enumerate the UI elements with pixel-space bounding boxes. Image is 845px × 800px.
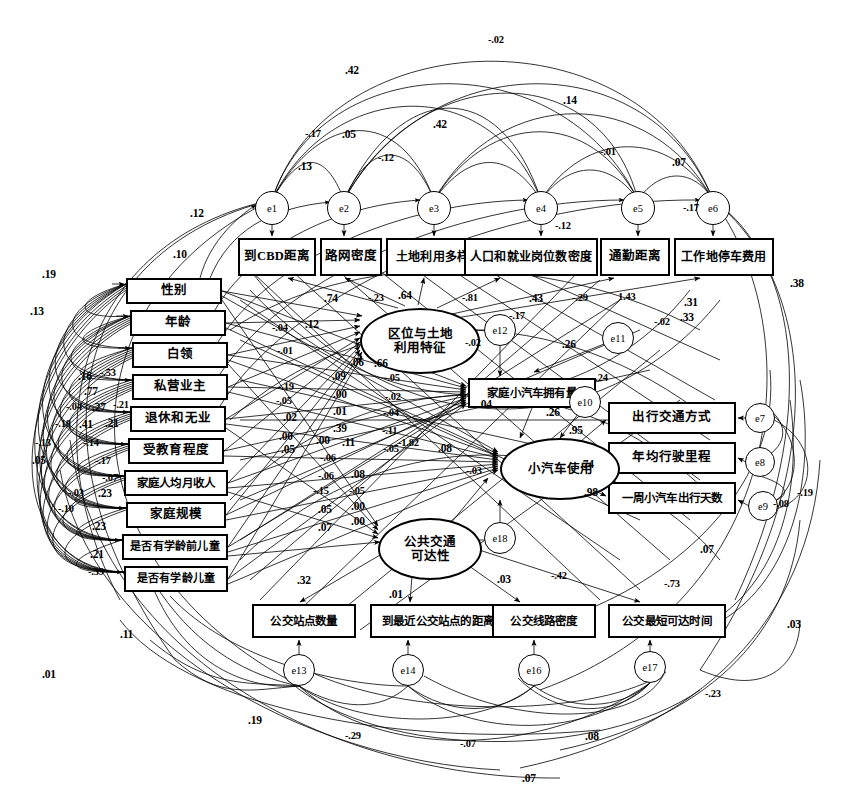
coefficient-label: .01 <box>42 668 56 680</box>
observed-label: 家庭小汽车拥有量 <box>487 387 577 399</box>
observed-box-age[interactable]: 年龄 <box>130 310 226 336</box>
observed-box-bus-stop-count[interactable]: 公交站点数量 <box>252 604 356 638</box>
coefficient-label: -.24 <box>592 372 608 383</box>
observed-box-road-density[interactable]: 路网密度 <box>320 238 382 276</box>
latent-car-usage[interactable]: 小汽车使用 <box>500 438 620 500</box>
observed-box-private-business-owner[interactable]: 私营业主 <box>132 374 228 400</box>
observed-box-household-income-per-capita[interactable]: 家庭人均月收人 <box>124 470 228 496</box>
coefficient-label: .12 <box>305 318 319 330</box>
error-circle-e4[interactable]: e4 <box>524 191 558 225</box>
observed-box-weekly-car-trip-days[interactable]: 一周小汽车出行天数 <box>608 482 736 514</box>
coefficient-label: .39 <box>333 422 347 434</box>
error-circle-e7[interactable]: e7 <box>745 403 775 433</box>
error-circle-e11[interactable]: e11 <box>602 322 634 354</box>
error-label: e2 <box>339 203 349 214</box>
observed-box-cbd-distance[interactable]: 到CBD距离 <box>238 238 316 276</box>
observed-box-retired-unemployed[interactable]: 退休和无业 <box>130 406 226 432</box>
error-label: e18 <box>492 533 507 544</box>
error-label: e17 <box>642 662 657 673</box>
observed-label: 出行交通方式 <box>632 411 711 424</box>
coefficient-label: .03 <box>497 573 511 585</box>
coefficient-label: .13 <box>298 160 312 172</box>
coefficient-label: -.12 <box>378 152 394 163</box>
error-circle-e17[interactable]: e17 <box>634 651 666 683</box>
observed-label: 家庭规模 <box>150 508 203 521</box>
latent-transit-accessibility[interactable]: 公共交通 可达性 <box>378 518 482 580</box>
coefficient-label: .66 <box>374 357 388 369</box>
observed-box-workplace-parking-cost[interactable]: 工作地停车费用 <box>674 238 774 276</box>
coefficient-label: .21 <box>105 417 119 429</box>
coefficient-label: -.23 <box>705 688 721 699</box>
coefficient-label: .07 <box>318 521 332 533</box>
coefficient-label: -.13 <box>35 437 51 448</box>
coefficient-label: -.17 <box>95 455 111 466</box>
coefficient-label: .31 <box>684 296 698 308</box>
coefficient-label: .07 <box>700 543 714 555</box>
observed-label: 年龄 <box>165 316 191 329</box>
error-circle-e10[interactable]: e10 <box>569 386 601 418</box>
error-circle-e8[interactable]: e8 <box>745 447 775 477</box>
coefficient-label: -.04 <box>272 322 288 333</box>
coefficient-label: .42 <box>345 64 359 76</box>
observed-box-distance-to-nearest-bus-stop[interactable]: 到最近公交站点的距离 <box>370 604 506 638</box>
coefficient-label: -.15 <box>313 485 329 496</box>
observed-box-has-preschool-children[interactable]: 是否有学龄前儿童 <box>122 534 228 560</box>
latent-label-line2: 利用特征 <box>388 341 453 355</box>
observed-label: 是否有学龄儿童 <box>137 573 215 585</box>
error-circle-e6[interactable]: e6 <box>696 191 730 225</box>
observed-label: 通勤距离 <box>609 250 662 263</box>
coefficient-label: .07 <box>672 156 686 168</box>
coefficient-label: -.23 <box>368 292 384 303</box>
coefficient-label: .10 <box>173 248 187 260</box>
coefficient-label: -.03 <box>466 465 482 476</box>
observed-label: 受教育程度 <box>143 444 209 457</box>
error-circle-e1[interactable]: e1 <box>255 191 289 225</box>
coefficient-label: .41 <box>79 418 93 430</box>
error-circle-e18[interactable]: e18 <box>484 522 516 554</box>
observed-box-annual-mileage[interactable]: 年均行驶里程 <box>608 442 736 474</box>
coefficient-label: .16 <box>78 370 92 382</box>
coefficient-label: .03 <box>787 618 801 630</box>
observed-box-education-level[interactable]: 受教育程度 <box>128 438 224 464</box>
error-circle-e3[interactable]: e3 <box>417 191 451 225</box>
observed-box-pop-job-density[interactable]: 人口和就业岗位数密度 <box>464 238 598 276</box>
observed-box-shortest-bus-access-time[interactable]: 公交最短可达时间 <box>608 604 726 638</box>
observed-box-has-school-age-children[interactable]: 是否有学龄儿童 <box>124 566 228 592</box>
observed-box-commute-distance[interactable]: 通勤距离 <box>600 238 670 276</box>
coefficient-label: .43 <box>529 292 543 304</box>
observed-box-white-collar[interactable]: 白领 <box>132 342 228 368</box>
coefficient-label: .74 <box>580 458 594 470</box>
coefficient-label: .95 <box>569 424 583 436</box>
error-circle-e13[interactable]: e13 <box>283 654 315 686</box>
observed-label: 私营业主 <box>154 380 207 393</box>
coefficient-label: .07 <box>522 772 536 784</box>
error-label: e8 <box>755 457 765 468</box>
coefficient-label: -.06 <box>320 452 336 463</box>
coefficient-label: .14 <box>563 94 577 106</box>
error-circle-e5[interactable]: e5 <box>621 191 655 225</box>
observed-box-bus-line-density[interactable]: 公交线路密度 <box>492 604 596 638</box>
coefficient-label: .01 <box>333 405 347 417</box>
coefficient-label: -.29 <box>345 730 361 741</box>
coefficient-label: -.02 <box>385 391 401 402</box>
coefficient-label: -.01 <box>600 146 616 157</box>
coefficient-label: .00 <box>316 434 330 446</box>
latent-label-line1: 区位与土地 <box>388 327 453 341</box>
coefficient-label: -.21 <box>113 399 129 410</box>
coefficient-label: -.05 <box>383 443 399 454</box>
error-label: e10 <box>577 397 592 408</box>
error-circle-e2[interactable]: e2 <box>327 191 361 225</box>
observed-box-travel-mode[interactable]: 出行交通方式 <box>608 402 736 434</box>
coefficient-label: .27 <box>92 401 106 413</box>
error-circle-e16[interactable]: e16 <box>518 654 550 686</box>
observed-label: 退休和无业 <box>145 412 211 425</box>
coefficient-label: -.07 <box>102 472 118 483</box>
observed-box-household-size[interactable]: 家庭规模 <box>126 502 226 528</box>
coefficient-label: .05 <box>32 454 46 466</box>
observed-box-gender[interactable]: 性别 <box>126 278 222 304</box>
observed-label: 性别 <box>161 284 187 297</box>
coefficient-label: .00 <box>351 515 365 527</box>
coefficient-label: -.42 <box>551 570 567 581</box>
error-circle-e14[interactable]: e14 <box>392 654 424 686</box>
observed-label: 公交最短可达时间 <box>622 615 712 627</box>
